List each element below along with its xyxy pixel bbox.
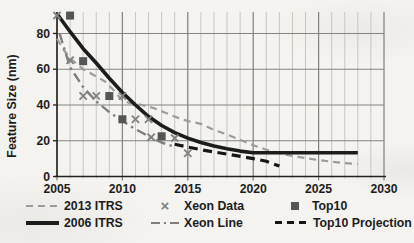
- legend-swatch-top10-square-marker: [283, 199, 307, 213]
- legend-item-top10-projection: Top10 Projection: [275, 215, 412, 230]
- x-tick-label: 2030: [370, 182, 397, 196]
- legend-item-xeon-line: Xeon Line: [151, 215, 243, 230]
- legend-label: Top10: [312, 199, 347, 213]
- legend-swatch-top10-projection-dashed-line: [275, 216, 308, 230]
- scanned-figure: 200520102015202020252030020406080Feature…: [0, 0, 414, 243]
- x-tick-label: 2015: [174, 182, 201, 196]
- legend-item-top10: Top10: [283, 198, 347, 213]
- legend-item-xeon-data: × Xeon Data: [151, 198, 244, 213]
- y-tick-label: 60: [36, 62, 50, 76]
- legend-label: Xeon Line: [184, 216, 243, 230]
- y-tick-label: 20: [36, 134, 50, 148]
- legend-item-2013-itrs: 2013 ITRS: [26, 198, 123, 213]
- y-tick-label: 80: [36, 27, 50, 41]
- legend-label: Xeon Data: [184, 199, 244, 213]
- legend-label: 2006 ITRS: [64, 216, 123, 230]
- x-tick-label: 2010: [109, 182, 136, 196]
- series-2006-itrs: [57, 14, 358, 153]
- legend-swatch-2006-itrs-solid-line: [26, 216, 59, 230]
- x-tick-label: 2025: [305, 182, 332, 196]
- legend-item-2006-itrs: 2006 ITRS: [26, 215, 123, 230]
- y-tick-label: 0: [43, 170, 50, 184]
- legend-swatch-2013-itrs-dashed-line: [26, 199, 59, 213]
- x-tick-label: 2020: [240, 182, 267, 196]
- legend-label: 2013 ITRS: [64, 199, 123, 213]
- series-xeon-line: [60, 34, 175, 148]
- y-tick-label: 40: [36, 98, 50, 112]
- legend-swatch-xeon-line-dashdot-line: [151, 216, 179, 230]
- y-axis-title: Feature Size (nm): [5, 54, 19, 157]
- legend-label: Top10 Projection: [313, 216, 412, 230]
- tick-labels: 200520102015202020252030020406080Feature…: [5, 27, 398, 196]
- legend-swatch-xeon-data-x-marker: ×: [151, 199, 179, 213]
